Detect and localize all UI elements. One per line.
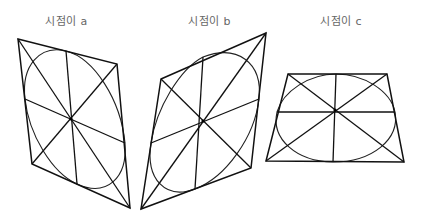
figure-c [266,74,404,162]
figure-a [18,39,130,208]
horizontal-midline-b [151,99,259,143]
center-point-c [333,108,336,111]
diagonal-b-1 [161,79,251,168]
perspective-diagram [0,0,421,219]
figure-b [141,33,266,209]
center-point-a [69,117,72,120]
vertical-midline-c [333,74,336,162]
diagonal-c-1 [288,74,404,162]
center-point-b [201,119,204,122]
horizontal-midline-a [25,99,125,143]
